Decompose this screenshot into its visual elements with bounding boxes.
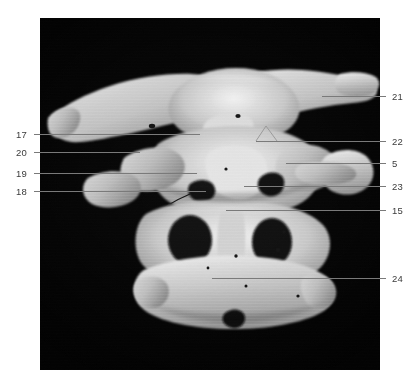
label-18[interactable]: 18 xyxy=(16,187,27,197)
label-22[interactable]: 22 xyxy=(392,137,403,147)
label-20[interactable]: 20 xyxy=(16,148,27,158)
label-23[interactable]: 23 xyxy=(392,182,403,192)
anatomical-figure-plate: 17201918 21225231524 xyxy=(0,0,417,390)
label-5[interactable]: 5 xyxy=(392,159,397,169)
label-17[interactable]: 17 xyxy=(16,130,27,140)
bone-body-group xyxy=(40,18,380,370)
vertebrae-specimen-image xyxy=(40,18,380,370)
label-15[interactable]: 15 xyxy=(392,206,403,216)
label-24[interactable]: 24 xyxy=(392,274,403,284)
label-19[interactable]: 19 xyxy=(16,169,27,179)
label-21[interactable]: 21 xyxy=(392,92,403,102)
specimen-photograph xyxy=(40,18,380,370)
